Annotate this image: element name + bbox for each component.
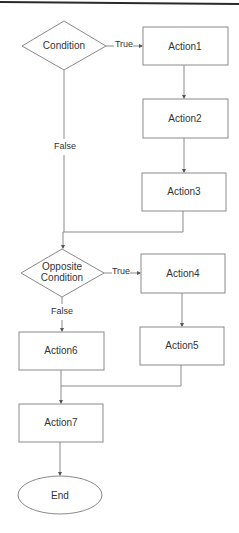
condition-node[interactable]: Condition bbox=[22, 21, 106, 70]
flowchart-canvas: Condition True Action1 Action2 Action3 F… bbox=[0, 0, 239, 533]
action2-label: Action2 bbox=[168, 113, 202, 124]
action6-node[interactable]: Action6 bbox=[19, 332, 104, 370]
opposite-condition-node[interactable]: Opposite Condition bbox=[21, 249, 104, 297]
edge-condition-false: False bbox=[54, 70, 76, 232]
action3-node[interactable]: Action3 bbox=[142, 173, 226, 211]
end-label: End bbox=[51, 490, 69, 501]
edge-action3-merge bbox=[63, 211, 183, 232]
edge-label-false-2: False bbox=[51, 306, 73, 316]
edge-label-true-2: True bbox=[112, 266, 130, 276]
edge-opposite-true: True bbox=[104, 266, 140, 276]
action4-label: Action4 bbox=[166, 268, 200, 279]
action7-node[interactable]: Action7 bbox=[19, 404, 103, 442]
action2-node[interactable]: Action2 bbox=[143, 99, 228, 138]
edge-label-true: True bbox=[115, 39, 133, 49]
action3-label: Action3 bbox=[167, 186, 201, 197]
opposite-condition-label-line2: Condition bbox=[41, 272, 83, 283]
edge-opposite-false: False bbox=[51, 297, 73, 331]
top-rule bbox=[0, 2, 239, 4]
end-node[interactable]: End bbox=[18, 476, 102, 514]
action7-label: Action7 bbox=[44, 417, 78, 428]
action5-label: Action5 bbox=[165, 340, 199, 351]
action1-node[interactable]: Action1 bbox=[143, 27, 228, 65]
action6-label: Action6 bbox=[44, 345, 78, 356]
edge-condition-true: True bbox=[106, 39, 142, 49]
action4-node[interactable]: Action4 bbox=[141, 254, 225, 293]
action5-node[interactable]: Action5 bbox=[140, 327, 224, 365]
opposite-condition-label-line1: Opposite bbox=[42, 261, 82, 272]
edge-label-false: False bbox=[54, 141, 76, 151]
action1-label: Action1 bbox=[168, 41, 202, 52]
condition-label: Condition bbox=[43, 40, 85, 51]
